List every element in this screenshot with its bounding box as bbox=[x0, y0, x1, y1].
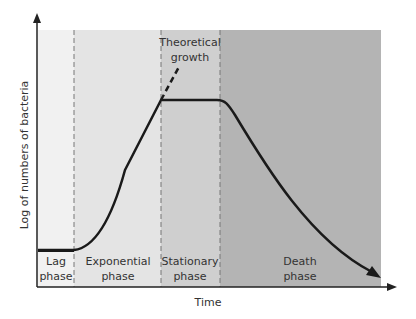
exponential-phase-band bbox=[74, 30, 161, 287]
y-axis-label: Log of numbers of bacteria bbox=[18, 81, 31, 230]
growth-curve-diagram: Lag phase Exponential phase Stationary p… bbox=[0, 0, 416, 319]
lag-phase-label-line1: Lag bbox=[46, 255, 66, 268]
theoretical-growth-label-line1: Theoretical bbox=[158, 36, 220, 49]
lag-phase-label-line2: phase bbox=[39, 270, 72, 283]
stationary-phase-label-line2: phase bbox=[173, 270, 206, 283]
death-phase-label-line1: Death bbox=[283, 255, 316, 268]
death-phase-label-line2: phase bbox=[283, 270, 316, 283]
lag-phase-band bbox=[38, 30, 74, 287]
stationary-phase-label-line1: Stationary bbox=[162, 255, 219, 268]
x-axis-label: Time bbox=[194, 296, 222, 309]
x-axis-arrowhead-icon bbox=[387, 283, 397, 291]
exponential-phase-label-line1: Exponential bbox=[85, 255, 150, 268]
exponential-phase-label-line2: phase bbox=[101, 270, 134, 283]
death-phase-band bbox=[220, 30, 381, 287]
y-axis-arrowhead-icon bbox=[33, 13, 41, 23]
stationary-phase-band bbox=[161, 30, 220, 287]
theoretical-growth-label-line2: growth bbox=[171, 51, 209, 64]
